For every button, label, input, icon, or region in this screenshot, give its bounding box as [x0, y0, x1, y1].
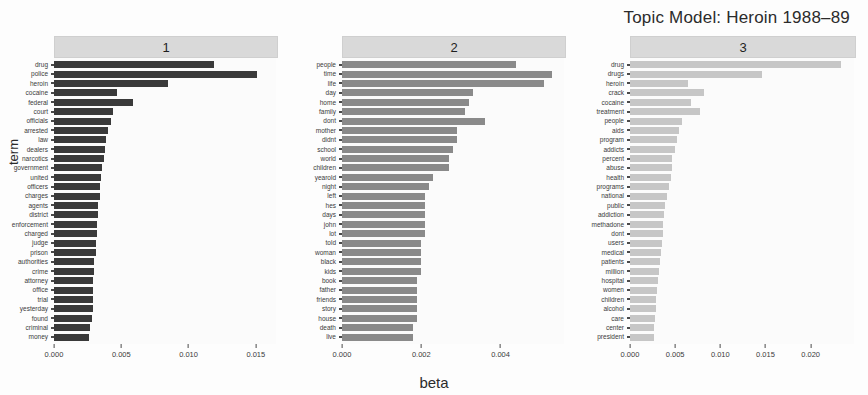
plot-wrap-3: drugdrugsheroincrackcocainetreatmentpeop… — [576, 58, 868, 344]
bar-row — [342, 126, 564, 135]
y-tick-label: aids — [576, 126, 630, 135]
bar — [54, 202, 98, 209]
bar-row — [630, 182, 854, 191]
x-tick-mark — [765, 344, 766, 348]
bar-row — [54, 145, 276, 154]
bar-row — [630, 107, 854, 116]
y-tick-label: dont — [576, 229, 630, 238]
x-tick: 0.002 — [412, 344, 431, 359]
y-tick-label: office — [0, 285, 54, 294]
y-tick-label: people — [576, 116, 630, 125]
bar-row — [54, 182, 276, 191]
y-tick-label: family — [288, 107, 342, 116]
bar — [342, 305, 417, 312]
bar-row — [54, 88, 276, 97]
y-tick-label: women — [576, 285, 630, 294]
bar-row — [342, 116, 564, 125]
y-tick-label: children — [288, 163, 342, 172]
bar-row — [342, 173, 564, 182]
bar — [54, 183, 100, 190]
bar — [342, 324, 413, 331]
bar — [342, 108, 465, 115]
y-tick-label: black — [288, 257, 342, 266]
bar — [54, 296, 93, 303]
y-tick-label: percent — [576, 154, 630, 163]
y-tick-label: united — [0, 173, 54, 182]
bar-row — [630, 79, 854, 88]
bar-row — [342, 107, 564, 116]
y-tick-label: time — [288, 69, 342, 78]
y-tick-label: day — [288, 88, 342, 97]
bar — [342, 296, 417, 303]
y-tick-label: yearold — [288, 173, 342, 182]
x-tick: 0.004 — [491, 344, 510, 359]
bar-row — [342, 98, 564, 107]
bar — [342, 118, 485, 125]
bar-row — [54, 191, 276, 200]
bar — [54, 249, 96, 256]
bar — [54, 61, 214, 68]
y-tick-label: judge — [0, 238, 54, 247]
y-tick-label: public — [576, 201, 630, 210]
x-tick-label: 0.005 — [112, 350, 131, 359]
bar-row — [342, 267, 564, 276]
x-axis-title: beta — [0, 374, 868, 391]
y-tick-label: federal — [0, 98, 54, 107]
y-tick-label: didnt — [288, 135, 342, 144]
x-tick-mark — [810, 344, 811, 348]
bar-row — [342, 285, 564, 294]
x-tick-label: 0.000 — [621, 350, 640, 359]
x-tick-label: 0.000 — [45, 350, 64, 359]
plot-wrap-2: peopletimelifedayhomefamilydontmotherdid… — [288, 58, 576, 344]
bar — [342, 193, 425, 200]
y-tick-label: treatment — [576, 107, 630, 116]
y-tick-label: medical — [576, 248, 630, 257]
bar-row — [630, 276, 854, 285]
bar — [630, 258, 660, 265]
y-tick-label: house — [288, 314, 342, 323]
y-tick-label: hes — [288, 201, 342, 210]
y-tick-label: district — [0, 210, 54, 219]
bar — [630, 80, 688, 87]
bar-row — [342, 163, 564, 172]
plot-wrap-1: drugpoliceheroincocainefederalcourtoffic… — [0, 58, 288, 344]
y-tick-label: abuse — [576, 163, 630, 172]
y-tick-label: court — [0, 107, 54, 116]
bar — [630, 183, 669, 190]
y-tick-label: told — [288, 238, 342, 247]
bar — [342, 240, 421, 247]
y-tick-label: addiction — [576, 210, 630, 219]
bar — [54, 211, 98, 218]
plot-area-3 — [630, 58, 854, 344]
bar-row — [630, 220, 854, 229]
bar-row — [630, 323, 854, 332]
bar — [630, 99, 691, 106]
x-tick-mark — [255, 344, 256, 348]
x-tick-mark — [720, 344, 721, 348]
y-tick-label: cocaine — [0, 88, 54, 97]
bar — [342, 155, 449, 162]
y-tick-label: program — [576, 135, 630, 144]
y-tick-label: home — [288, 98, 342, 107]
y-tick-label: lot — [288, 229, 342, 238]
x-tick: 0.000 — [621, 344, 640, 359]
bar-row — [54, 79, 276, 88]
facet-strip-label-2: 2 — [342, 36, 566, 58]
bar-row — [630, 163, 854, 172]
bar-row — [54, 238, 276, 247]
bar — [630, 296, 656, 303]
x-axis-2: 0.0000.0020.004 — [342, 344, 564, 366]
y-tick-label: left — [288, 191, 342, 200]
bar — [630, 108, 700, 115]
bar — [342, 211, 425, 218]
bar-row — [342, 135, 564, 144]
y-tick-labels-2: peopletimelifedayhomefamilydontmotherdid… — [288, 58, 342, 344]
bar-row — [342, 276, 564, 285]
bar-row — [342, 323, 564, 332]
y-tick-label: drug — [576, 60, 630, 69]
bar — [630, 277, 658, 284]
bar — [630, 240, 662, 247]
bar — [54, 155, 104, 162]
y-tick-label: criminal — [0, 323, 54, 332]
y-tick-label: million — [576, 267, 630, 276]
